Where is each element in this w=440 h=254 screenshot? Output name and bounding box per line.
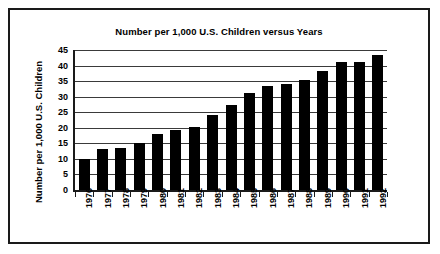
bar[interactable] (189, 127, 200, 190)
x-label-slot: 1985 (240, 196, 258, 236)
y-axis-tick-label: 0 (63, 185, 68, 195)
bar-slot (259, 50, 277, 190)
bar[interactable] (281, 84, 292, 190)
bar-slot (222, 50, 240, 190)
bar-slot (167, 50, 185, 190)
bar[interactable] (134, 143, 145, 190)
x-label-slot: 1983 (204, 196, 222, 236)
x-label-slot: 1980 (148, 196, 166, 236)
y-axis-title: Number per 1,000 U.S. Children (32, 58, 46, 206)
x-label-slot: 1984 (222, 196, 240, 236)
bar-slot (369, 50, 387, 190)
bar[interactable] (226, 105, 237, 190)
bar-slot (93, 50, 111, 190)
bar-slot (332, 50, 350, 190)
bar[interactable] (207, 115, 218, 190)
bar[interactable] (79, 159, 90, 190)
y-axis-tick-label: 5 (63, 169, 68, 179)
bar-slot (130, 50, 148, 190)
bar[interactable] (152, 134, 163, 190)
bar-slot (240, 50, 258, 190)
y-axis-tick-label: 15 (58, 138, 68, 148)
x-label-slot: 1986 (259, 196, 277, 236)
bar[interactable] (115, 148, 126, 190)
x-label-slot: 1989 (314, 196, 332, 236)
chart-frame: Number per 1,000 U.S. Children versus Ye… (8, 8, 430, 244)
bar-slot (185, 50, 203, 190)
bar[interactable] (317, 71, 328, 190)
bar[interactable] (262, 86, 273, 190)
x-label-slot: 1987 (277, 196, 295, 236)
bar[interactable] (244, 93, 255, 190)
bar-slot (148, 50, 166, 190)
plot-area: 454035302520151050 197619771978197919801… (73, 50, 387, 198)
x-label-slot: 1982 (185, 196, 203, 236)
bar[interactable] (354, 62, 365, 190)
y-axis-tick-label: 35 (58, 76, 68, 86)
bar-slot (112, 50, 130, 190)
x-label-slot: 1976 (75, 196, 93, 236)
bar[interactable] (336, 62, 347, 190)
x-label-slot: 1990 (332, 196, 350, 236)
x-axis-tick-label: 1992 (378, 188, 388, 208)
chart-title: Number per 1,000 U.S. Children versus Ye… (10, 26, 428, 37)
y-axis-tick-label: 40 (58, 61, 68, 71)
bar[interactable] (372, 55, 383, 190)
x-label-slot: 1988 (295, 196, 313, 236)
x-label-slot: 1991 (350, 196, 368, 236)
x-label-slot: 1977 (93, 196, 111, 236)
x-label-slot: 1992 (369, 196, 387, 236)
bar[interactable] (170, 130, 181, 190)
bar-slot (75, 50, 93, 190)
x-label-slot: 1981 (167, 196, 185, 236)
bar-slot (204, 50, 222, 190)
y-axis-tick-label: 25 (58, 107, 68, 117)
y-axis-tick-label: 45 (58, 45, 68, 55)
y-axis-tick-label: 10 (58, 154, 68, 164)
bar-slot (295, 50, 313, 190)
x-label-slot: 1978 (112, 196, 130, 236)
y-axis-tick-label: 20 (58, 123, 68, 133)
bar-series (75, 50, 387, 190)
bar-slot (350, 50, 368, 190)
x-label-slot: 1979 (130, 196, 148, 236)
y-axis-tick-label: 30 (58, 92, 68, 102)
bar[interactable] (299, 80, 310, 190)
bar[interactable] (97, 149, 108, 190)
bar-slot (314, 50, 332, 190)
x-axis-tick-labels: 1976197719781979198019811982198319841985… (75, 196, 387, 236)
bar-slot (277, 50, 295, 190)
